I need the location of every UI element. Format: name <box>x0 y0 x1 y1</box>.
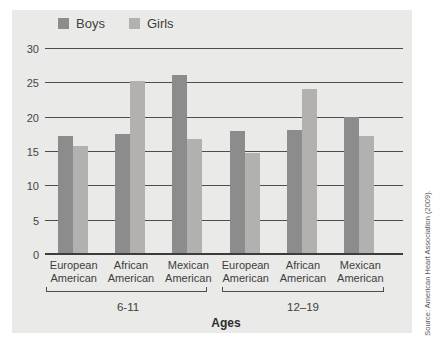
bar-girls-4 <box>245 153 260 253</box>
legend-item-girls: Girls <box>129 16 174 31</box>
bar-girls-2 <box>130 81 145 253</box>
legend-item-boys: Boys <box>58 16 105 31</box>
boys-swatch <box>58 18 69 29</box>
girls-legend-label: Girls <box>147 16 174 31</box>
bar-boys-4 <box>230 131 245 253</box>
legend: Boys Girls <box>58 15 412 31</box>
y-tick-label-25: 25 <box>27 77 39 89</box>
category-label-5: African American <box>274 259 331 285</box>
category-label-6: Mexican American <box>332 259 389 285</box>
chart-area: 051015202530 <box>12 49 412 255</box>
y-tick-label-30: 30 <box>27 43 39 55</box>
bar-group-3 <box>172 75 202 253</box>
bar-girls-5 <box>302 89 317 253</box>
bar-girls-3 <box>187 139 202 253</box>
category-label-4: European American <box>217 259 274 285</box>
bar-group-1 <box>58 136 88 253</box>
y-tick-label-5: 5 <box>33 215 39 227</box>
bar-girls-1 <box>73 146 88 253</box>
bar-girls-6 <box>359 136 374 253</box>
bar-boys-6 <box>344 117 359 253</box>
category-labels: European AmericanAfrican AmericanMexican… <box>45 255 403 285</box>
age-group-label-12-19: 12–19 <box>287 301 319 313</box>
plot-area <box>45 49 403 255</box>
x-axis-title: Ages <box>211 316 240 330</box>
bar-boys-1 <box>58 136 73 253</box>
y-tick-label-15: 15 <box>27 146 39 158</box>
bar-boys-5 <box>287 130 302 253</box>
bar-group-6 <box>344 117 374 253</box>
source-citation: Source: American Heart Association (2009… <box>423 188 435 338</box>
chart-panel: Boys Girls 051015202530 European America… <box>12 10 412 333</box>
age-bracket-12-19 <box>222 287 384 292</box>
y-axis-labels: 051015202530 <box>12 49 45 255</box>
age-bracket-6-11 <box>46 287 207 292</box>
girls-swatch <box>129 18 140 29</box>
category-label-2: African American <box>102 259 159 285</box>
y-tick-label-0: 0 <box>33 249 39 261</box>
bar-boys-3 <box>172 75 187 253</box>
bar-group-4 <box>230 131 260 253</box>
y-tick-label-20: 20 <box>27 112 39 124</box>
boys-legend-label: Boys <box>76 16 105 31</box>
category-label-1: European American <box>45 259 102 285</box>
x-axis-area: European AmericanAfrican AmericanMexican… <box>45 255 403 333</box>
bar-group-2 <box>115 81 145 253</box>
age-group-label-6-11: 6-11 <box>117 301 139 313</box>
bar-groups <box>45 49 403 253</box>
category-label-3: Mexican American <box>160 259 217 285</box>
y-tick-label-10: 10 <box>27 180 39 192</box>
bar-group-5 <box>287 89 317 253</box>
figure: Boys Girls 051015202530 European America… <box>0 0 437 344</box>
bar-boys-2 <box>115 134 130 253</box>
